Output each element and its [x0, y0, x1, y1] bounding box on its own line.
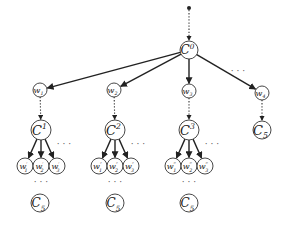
edge-arrow	[119, 139, 127, 158]
edge-arrow	[176, 139, 184, 158]
leaf-node-1-3: w′3	[49, 158, 65, 174]
leaf-node-3-3: w‴3	[197, 158, 213, 174]
annotations-layer: · · ·· · ·· · ·· · ·· · ·· · ·· · ·	[34, 66, 245, 187]
edges-layer	[28, 10, 262, 158]
node-c2: C2	[105, 120, 125, 140]
dotted-edge	[114, 97, 115, 120]
root-dot	[187, 6, 191, 10]
tree-diagram: C0w1w2w3w4C1C2C3C5w′1w′2w′3C5w″1w″2w″3C5…	[0, 0, 281, 227]
bottom-node-c5-1: C5	[31, 194, 49, 213]
node-w3: w3	[182, 84, 196, 98]
ellipsis: · · ·	[231, 66, 245, 76]
root-node-c0: C0	[180, 41, 198, 59]
ellipsis: · · ·	[131, 139, 145, 149]
ellipsis: · · ·	[34, 177, 48, 187]
leaf-node-3-1: w‴1	[165, 158, 181, 174]
leaf-node-1-2: w′2	[33, 158, 49, 174]
node-c1: C1	[31, 120, 51, 140]
leaf-node-2-2: w″2	[107, 158, 123, 174]
leaf-node-2-3: w″3	[123, 158, 139, 174]
edge-arrow	[28, 139, 36, 158]
ellipsis: · · ·	[205, 139, 219, 149]
edge-arrow	[193, 139, 201, 158]
leaf-node-2-1: w″1	[91, 158, 107, 174]
bottom-node-c5-3: C5	[180, 194, 198, 213]
node-c3: C3	[179, 120, 199, 140]
edge-arrow	[45, 139, 53, 158]
bottom-node-c5-2: C5	[106, 194, 124, 213]
leaf-node-3-2: w‴2	[181, 158, 197, 174]
leaf-node-1-1: w′1	[17, 158, 33, 174]
edge-arrow	[197, 55, 256, 90]
ellipsis: · · ·	[182, 177, 196, 187]
node-c5_right: C5	[253, 121, 271, 140]
ellipsis: · · ·	[57, 139, 71, 149]
dotted-edge	[40, 97, 41, 120]
edge-arrow	[102, 139, 110, 158]
edge-arrow	[121, 54, 181, 86]
ellipsis: · · ·	[108, 177, 122, 187]
nodes-layer: C0w1w2w3w4C1C2C3C5w′1w′2w′3C5w″1w″2w″3C5…	[17, 6, 271, 213]
node-w2: w2	[107, 83, 121, 97]
node-w4: w4	[255, 86, 269, 100]
node-w1: w1	[33, 83, 47, 97]
